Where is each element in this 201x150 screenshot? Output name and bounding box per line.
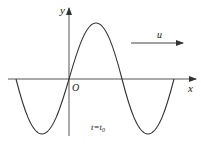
x-axis-label: x (187, 82, 193, 94)
wave-diagram: y x O u t=t0 (0, 0, 201, 150)
velocity-label: u (157, 29, 162, 40)
time-label: t=t0 (91, 122, 105, 133)
y-axis-label: y (59, 4, 65, 16)
origin-label: O (72, 82, 79, 93)
